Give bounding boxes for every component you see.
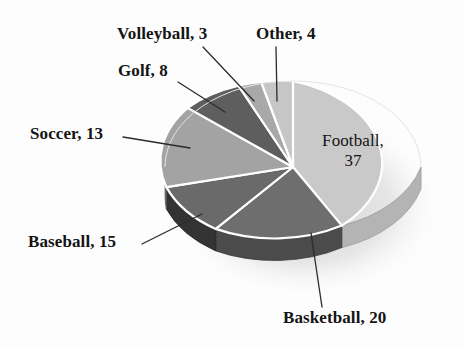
- pie-chart-canvas: [0, 0, 463, 348]
- pie-label-soccer: Soccer, 13: [30, 124, 103, 143]
- pie-label-football-line2: 37: [344, 151, 361, 170]
- pie-label-baseball: Baseball, 15: [28, 232, 116, 251]
- pie-chart-figure: Volleyball, 3 Other, 4 Golf, 8 Soccer, 1…: [0, 0, 463, 348]
- pie-label-football-line1: Football,: [322, 131, 384, 150]
- pie-label-golf: Golf, 8: [118, 61, 168, 80]
- pie-label-football: Football, 37: [310, 131, 396, 171]
- pie-label-basketball: Basketball, 20: [283, 308, 386, 327]
- pie-label-other: Other, 4: [256, 24, 316, 43]
- pie-label-volleyball: Volleyball, 3: [117, 24, 207, 43]
